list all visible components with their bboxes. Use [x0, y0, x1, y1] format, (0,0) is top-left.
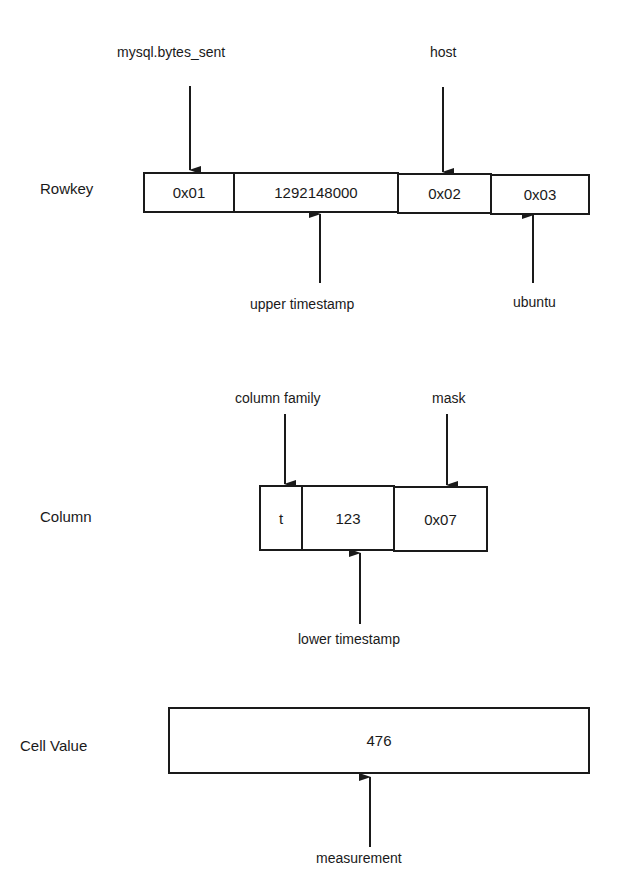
rowkey-label: Rowkey — [40, 180, 93, 197]
label-measurement: measurement — [316, 850, 402, 866]
column-cell-family: t — [259, 485, 303, 551]
rowkey-cell-tagk: 0x02 — [397, 173, 492, 214]
rowkey-cell-tagv: 0x03 — [490, 174, 590, 215]
column-cell-mask: 0x07 — [393, 486, 488, 552]
label-column-family: column family — [235, 390, 321, 406]
label-metric: mysql.bytes_sent — [117, 44, 225, 60]
cell-value-box: 476 — [168, 707, 590, 774]
column-label: Column — [40, 508, 92, 525]
label-ubuntu: ubuntu — [513, 294, 556, 310]
label-upper-timestamp: upper timestamp — [250, 296, 354, 312]
cell-value-label: Cell Value — [20, 737, 87, 754]
column-cell-offset: 123 — [301, 485, 395, 551]
label-host: host — [430, 44, 456, 60]
label-lower-timestamp: lower timestamp — [298, 631, 400, 647]
rowkey-cell-metric-id: 0x01 — [143, 172, 235, 213]
label-mask: mask — [432, 390, 465, 406]
rowkey-cell-timestamp: 1292148000 — [233, 172, 399, 213]
